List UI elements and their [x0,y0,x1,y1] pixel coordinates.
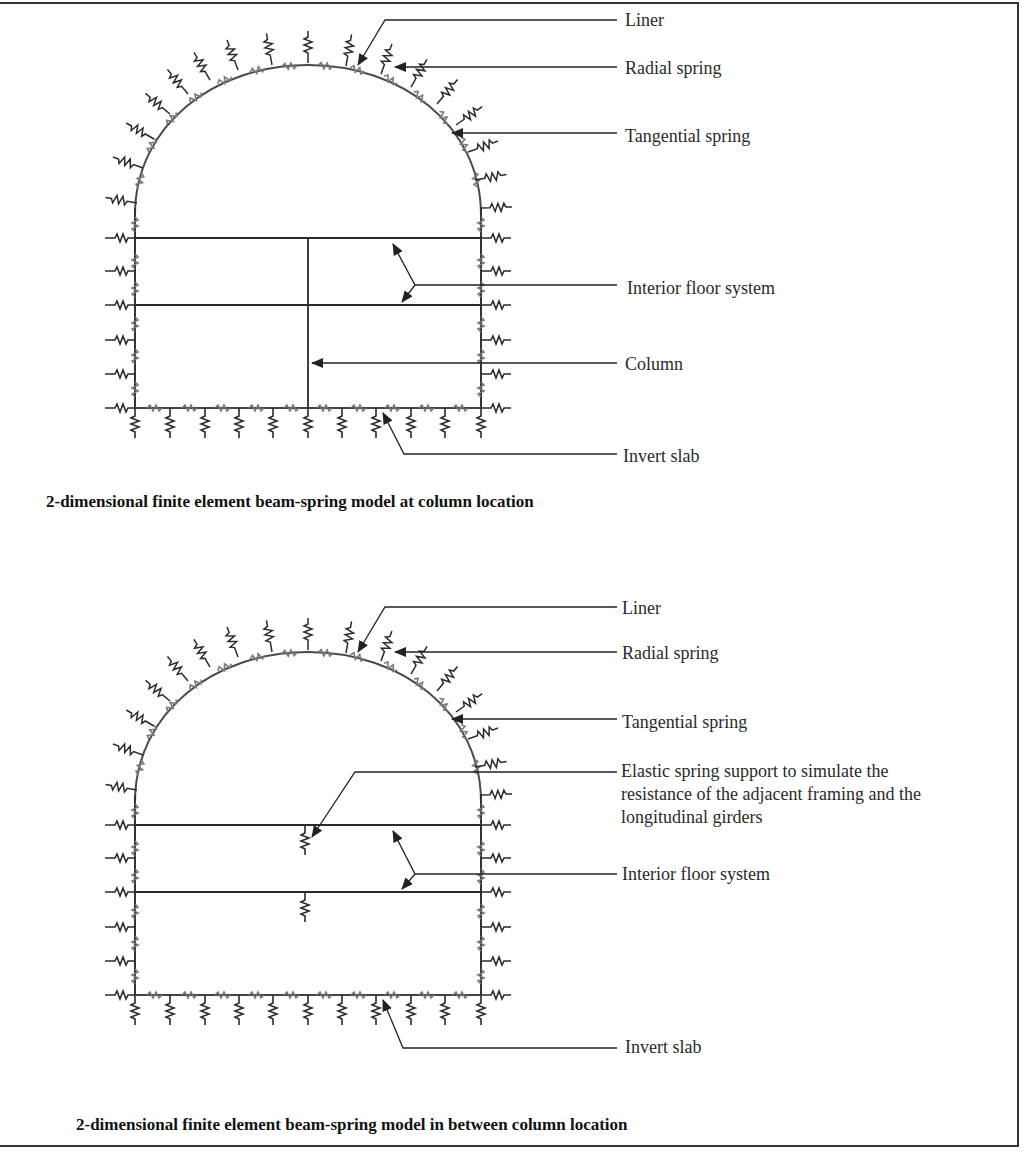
label-interior-floor-system: Interior floor system [622,863,770,885]
diagram-at-column [105,20,617,454]
leader-interior-floor-1 [393,244,617,285]
label-column: Column [625,353,683,375]
leader-elastic-spring-support [312,772,617,837]
leader-invert-slab [383,1000,617,1048]
diagram-between-column [105,607,617,1048]
leader-interior-floor-2 [402,285,415,302]
label-interior-floor-system: Interior floor system [627,277,775,299]
elastic-spring-support-upper [301,825,309,855]
beam-spring-diagrams [0,0,1025,1172]
label-elastic-spring-support: Elastic spring support to simulate the r… [621,760,941,829]
leader-liner [358,20,617,65]
label-radial-spring: Radial spring [622,642,719,664]
label-tangential-spring: Tangential spring [625,125,750,147]
leader-invert-slab [383,413,617,454]
label-tangential-spring: Tangential spring [622,711,747,733]
label-liner: Liner [622,597,661,619]
leader-interior-floor-1 [393,831,617,874]
tunnel-model [105,618,512,1025]
elastic-spring-support-lower [301,892,309,922]
label-invert-slab: Invert slab [623,445,699,467]
label-radial-spring: Radial spring [625,57,722,79]
caption-between-column: 2-dimensional finite element beam-spring… [76,1115,628,1135]
caption-at-column: 2-dimensional finite element beam-spring… [46,492,534,512]
label-invert-slab: Invert slab [625,1036,701,1058]
label-liner: Liner [625,9,664,31]
leader-liner [358,607,617,652]
leader-interior-floor-2 [402,874,415,889]
